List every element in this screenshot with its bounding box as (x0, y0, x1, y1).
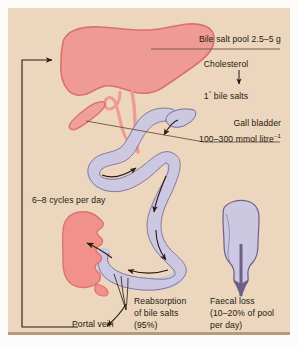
label-cholesterol: Cholesterol (171, 59, 281, 70)
label-cycles-per-day: 6–8 cycles per day (32, 195, 105, 206)
label-gall-bladder-concentration: 100–300 mmol litre–1 (199, 130, 281, 145)
label-reabsorption-line3: (95%) (134, 320, 157, 331)
diagram-canvas (8, 8, 290, 335)
label-gall-bladder: Gall bladder (233, 118, 281, 129)
label-reabsorption-line2: of bile salts (134, 308, 178, 319)
gall-bladder-conc-value: 100–300 mmol litre (199, 134, 274, 144)
label-faecal-loss-line1: Faecal loss (210, 296, 255, 307)
bile-duct-branch (105, 92, 120, 120)
recycle-arrow-to-liver (22, 60, 78, 327)
gall-bladder (69, 102, 105, 130)
label-faecal-loss-line2: (10–20% of pool (210, 308, 274, 319)
label-faecal-loss-line3: per day) (210, 320, 242, 331)
label-primary-bile-salts: 1° bile salts (171, 87, 281, 102)
label-bile-salt-pool: Bile salt pool 2.5–5 g (199, 34, 281, 45)
portal-circulation-organ (63, 212, 104, 288)
diagram-panel: Bile salt pool 2.5–5 g Cholesterol 1° bi… (8, 8, 290, 335)
litre-exponent: –1 (274, 132, 281, 139)
primary-bile-salts-suffix: bile salts (211, 91, 248, 101)
portal-organ-tail (95, 284, 109, 296)
label-reabsorption-line1: Reabsorption (134, 296, 186, 307)
enterohepatic-circulation-figure: Bile salt pool 2.5–5 g Cholesterol 1° bi… (0, 0, 298, 349)
label-portal-vein: Portal vein (72, 319, 114, 330)
